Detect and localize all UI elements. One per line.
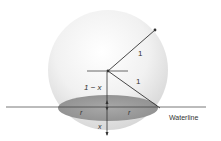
radius-upper-endpoint bbox=[154, 29, 157, 32]
label-depth-below: x bbox=[97, 123, 102, 130]
sphere-diagram: 1 1 1 − x r r x Waterline bbox=[0, 0, 221, 141]
label-radius-upper: 1 bbox=[138, 49, 143, 58]
label-waterline: Waterline bbox=[169, 114, 198, 121]
label-depth-above: 1 − x bbox=[84, 83, 103, 92]
label-radius-lower: 1 bbox=[136, 77, 141, 86]
center-point bbox=[107, 70, 110, 73]
arrow-bottom-icon bbox=[106, 132, 109, 136]
